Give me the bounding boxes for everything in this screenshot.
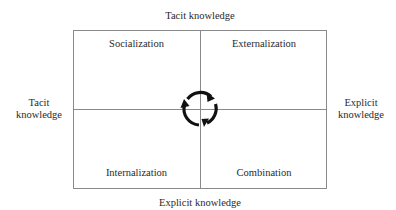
axis-label-right: Explicit knowledge xyxy=(330,97,392,121)
quadrant-combination: Combination xyxy=(201,167,327,179)
quadrant-internalization: Internalization xyxy=(73,167,200,179)
axis-label-left-line2: knowledge xyxy=(8,109,70,121)
axis-label-right-line2: knowledge xyxy=(330,109,392,121)
quadrant-socialization: Socialization xyxy=(73,38,200,50)
axis-label-right-line1: Explicit xyxy=(330,97,392,109)
cycle-arrows-icon xyxy=(178,87,222,131)
axis-label-bottom: Explicit knowledge xyxy=(0,197,396,209)
axis-label-left-line1: Tacit xyxy=(8,97,70,109)
axis-label-left: Tacit knowledge xyxy=(8,97,70,121)
quadrant-externalization: Externalization xyxy=(201,38,327,50)
axis-label-top: Tacit knowledge xyxy=(0,10,396,22)
